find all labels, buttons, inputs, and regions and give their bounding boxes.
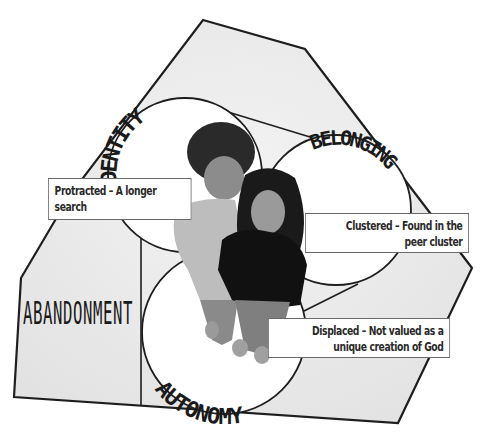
label-abandonment: ABANDONMENT <box>23 296 133 330</box>
callout-belonging-line2: peer cluster <box>312 234 463 250</box>
callout-identity-line2: search <box>55 199 185 215</box>
callout-identity-line1: Protracted – A longer <box>55 183 185 199</box>
callout-autonomy-line1: Displaced – Not valued as a <box>275 323 444 339</box>
callout-belonging: Clustered – Found in the peer cluster <box>305 213 469 253</box>
callout-identity: Protracted – A longer search <box>48 178 192 220</box>
callout-autonomy: Displaced – Not valued as a unique creat… <box>268 318 450 358</box>
callout-belonging-line1: Clustered – Found in the <box>312 218 463 234</box>
callout-autonomy-line2: unique creation of God <box>275 339 444 355</box>
